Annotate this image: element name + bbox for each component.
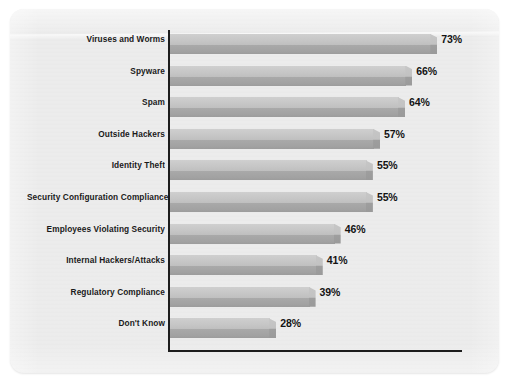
- bar-category-label: Spyware: [27, 65, 165, 77]
- bar-face: [170, 66, 406, 77]
- bar: [170, 129, 374, 149]
- bar: [170, 97, 399, 117]
- bar-end-cap: [430, 34, 437, 54]
- bar-face: [170, 192, 367, 203]
- bar: [170, 255, 317, 275]
- bar-shade: [170, 171, 367, 180]
- bar-value-label: 39%: [320, 286, 341, 298]
- bar: [170, 224, 335, 244]
- chart-plot-area: Viruses and Worms73%Spyware66%Spam64%Out…: [10, 9, 499, 373]
- bar-body: [170, 287, 310, 307]
- bar-shade: [170, 140, 374, 149]
- bar-end-cap: [316, 255, 323, 275]
- bar: [170, 34, 431, 54]
- bar-row: Employees Violating Security46%: [10, 224, 499, 244]
- bar-shade: [170, 266, 317, 275]
- bar-face: [170, 129, 374, 140]
- bar-row: Security Configuration Compliance55%: [10, 192, 499, 212]
- bar-shade: [170, 203, 367, 212]
- bar-face: [170, 97, 399, 108]
- bar-face: [170, 34, 431, 45]
- bar-category-label: Viruses and Worms: [27, 33, 165, 45]
- bar: [170, 160, 367, 180]
- bar-category-label: Spam: [27, 96, 165, 108]
- bar-row: Don't Know28%: [10, 318, 499, 338]
- bar-body: [170, 34, 431, 54]
- bar-face: [170, 318, 270, 329]
- bar: [170, 66, 406, 86]
- bar-category-label: Don't Know: [27, 317, 165, 329]
- bar-row: Spam64%: [10, 97, 499, 117]
- bar-face: [170, 255, 317, 266]
- bar-end-cap: [405, 66, 412, 86]
- bar-body: [170, 255, 317, 275]
- bar-category-label: Internal Hackers/Attacks: [27, 254, 165, 266]
- bar-end-cap: [309, 287, 316, 307]
- bar-shade: [170, 108, 399, 117]
- bar-value-label: 41%: [327, 254, 348, 266]
- bar-shade: [170, 298, 310, 307]
- bar-value-label: 55%: [377, 191, 398, 203]
- bar-value-label: 73%: [441, 33, 462, 45]
- bar-end-cap: [398, 97, 405, 117]
- bar-row: Identity Theft55%: [10, 160, 499, 180]
- bar-value-label: 64%: [409, 96, 430, 108]
- bar-row: Spyware66%: [10, 66, 499, 86]
- x-axis-line: [168, 350, 462, 352]
- bar-value-label: 55%: [377, 159, 398, 171]
- bar-row: Internal Hackers/Attacks41%: [10, 255, 499, 275]
- bar-value-label: 46%: [345, 223, 366, 235]
- bar-value-label: 57%: [384, 128, 405, 140]
- bar-category-label: Regulatory Compliance: [27, 286, 165, 298]
- bar-body: [170, 192, 367, 212]
- bar-body: [170, 129, 374, 149]
- bar: [170, 192, 367, 212]
- bar-end-cap: [373, 129, 380, 149]
- bar-category-label: Identity Theft: [27, 159, 165, 171]
- bar-category-label: Outside Hackers: [27, 128, 165, 140]
- bar-shade: [170, 45, 431, 54]
- bar-shade: [170, 329, 270, 338]
- bar-row: Viruses and Worms73%: [10, 34, 499, 54]
- bar-shade: [170, 235, 335, 244]
- bar-shade: [170, 77, 406, 86]
- chart-card: Viruses and Worms73%Spyware66%Spam64%Out…: [10, 9, 499, 373]
- bar-end-cap: [334, 224, 341, 244]
- bar-category-label: Employees Violating Security: [27, 223, 165, 235]
- bar-body: [170, 97, 399, 117]
- bar-end-cap: [366, 192, 373, 212]
- bar-face: [170, 287, 310, 298]
- bar: [170, 318, 270, 338]
- bar-body: [170, 66, 406, 86]
- bar-value-label: 66%: [416, 65, 437, 77]
- bar-end-cap: [366, 160, 373, 180]
- bar-end-cap: [269, 318, 276, 338]
- bar-category-label: Security Configuration Compliance: [27, 191, 165, 203]
- bar-body: [170, 160, 367, 180]
- bar-body: [170, 224, 335, 244]
- bar-value-label: 28%: [280, 317, 301, 329]
- bar-body: [170, 318, 270, 338]
- bar-face: [170, 224, 335, 235]
- page-root: Viruses and Worms73%Spyware66%Spam64%Out…: [0, 0, 512, 386]
- bar-face: [170, 160, 367, 171]
- bar-row: Outside Hackers57%: [10, 129, 499, 149]
- bar: [170, 287, 310, 307]
- bar-row: Regulatory Compliance39%: [10, 287, 499, 307]
